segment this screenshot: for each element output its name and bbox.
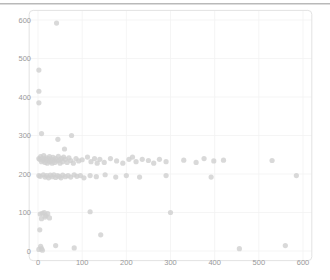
scatter-point (181, 158, 186, 163)
scatter-point (163, 159, 168, 164)
scatter-point (94, 174, 99, 179)
scatter-point (42, 215, 47, 220)
scatter-point (53, 243, 58, 248)
scatter-point (151, 161, 156, 166)
scatter-point (36, 89, 41, 94)
x-axis-tick-label: 600 (297, 258, 310, 267)
scatter-point (283, 243, 288, 248)
x-axis-tick-label: 500 (253, 258, 266, 267)
scatter-point (36, 100, 41, 105)
scatter-point (221, 158, 226, 163)
scatter-point (114, 158, 119, 163)
scatter-point (269, 158, 274, 163)
scatter-point (294, 173, 299, 178)
scatter-point (72, 245, 77, 250)
scatter-point (97, 157, 102, 162)
scatter-point (209, 174, 214, 179)
scatter-point (108, 156, 113, 161)
y-axis-tick-label: 500 (18, 54, 31, 63)
scatter-point (113, 174, 118, 179)
scatter-point (92, 156, 97, 161)
y-axis-tick-label: 300 (18, 131, 31, 140)
scatter-point (201, 156, 206, 161)
scatter-plot-canvas: 0100200300400500600 0100200300400500600 (0, 0, 330, 280)
scatter-point (102, 160, 107, 165)
scatter-plot-figure: 0100200300400500600 0100200300400500600 (0, 0, 330, 280)
x-axis-tick-label: 0 (36, 258, 40, 267)
scatter-point (69, 133, 74, 138)
scatter-point (168, 210, 173, 215)
scatter-point (211, 158, 216, 163)
x-axis-tick-label: 300 (164, 258, 177, 267)
scatter-point (85, 154, 90, 159)
y-axis-tick-label: 400 (18, 93, 31, 102)
scatter-point (130, 154, 135, 159)
scatter-point (80, 157, 85, 162)
y-axis-tick-label: 600 (18, 16, 31, 25)
scatter-point (140, 157, 145, 162)
scatter-point (36, 67, 41, 72)
scatter-point (47, 215, 52, 220)
scatter-point (62, 146, 67, 151)
scatter-point (54, 20, 59, 25)
scatter-point (37, 227, 42, 232)
scatter-point (81, 175, 86, 180)
scatter-point (133, 159, 138, 164)
scatter-point (163, 173, 168, 178)
x-axis-tick-labels: 0100200300400500600 (36, 258, 309, 267)
scatter-point (120, 161, 125, 166)
scatter-point (55, 137, 60, 142)
scatter-point (98, 232, 103, 237)
x-axis-tick-label: 200 (120, 258, 133, 267)
y-axis-tick-label: 200 (18, 170, 31, 179)
scatter-point (39, 131, 44, 136)
scatter-point (137, 174, 142, 179)
y-axis-tick-label: 0 (27, 247, 31, 256)
data-points (36, 20, 299, 252)
scatter-point (71, 161, 76, 166)
scatter-point (124, 173, 129, 178)
scatter-point (88, 209, 93, 214)
scatter-point (194, 160, 199, 165)
scatter-point (157, 157, 162, 162)
scatter-point (103, 172, 108, 177)
x-axis-tick-label: 400 (208, 258, 221, 267)
scatter-point (146, 158, 151, 163)
x-axis-tick-label: 100 (76, 258, 89, 267)
y-axis-tick-label: 100 (18, 208, 31, 217)
scatter-point (40, 248, 45, 253)
scatter-point (237, 246, 242, 251)
scatter-point (88, 173, 93, 178)
